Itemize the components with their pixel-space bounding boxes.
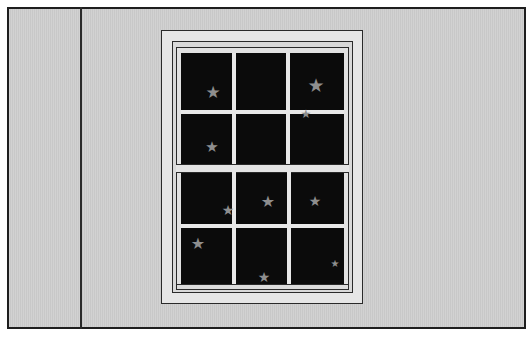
lower-muntin-horizontal	[181, 224, 344, 228]
wall-panel-divider	[80, 7, 82, 329]
upper-muntin-vertical-right	[286, 53, 290, 165]
star-icon: ★	[205, 84, 220, 101]
lower-muntin-vertical-right	[287, 172, 291, 284]
lower-muntin-vertical-left	[232, 172, 236, 284]
upper-muntin-horizontal	[181, 110, 344, 114]
star-icon: ★	[205, 140, 218, 155]
star-icon: ★	[301, 108, 312, 120]
star-icon: ★	[258, 270, 271, 284]
upper-muntin-vertical-left	[232, 53, 236, 165]
star-icon: ★	[222, 203, 235, 217]
star-icon: ★	[261, 194, 275, 210]
star-icon: ★	[309, 194, 322, 208]
star-icon: ★	[191, 236, 205, 252]
star-icon: ★	[307, 76, 324, 95]
lower-sash-glass	[181, 172, 344, 284]
star-icon: ★	[331, 259, 340, 269]
meeting-rail	[176, 164, 349, 173]
